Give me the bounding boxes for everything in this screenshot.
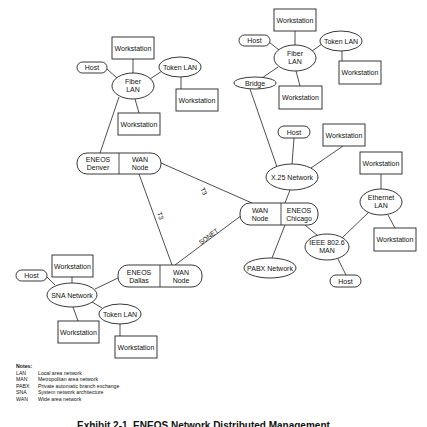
token-lan-node: Token LAN — [159, 57, 201, 77]
edge-ieee-host — [338, 259, 346, 275]
svg-text:WAN: WAN — [173, 269, 189, 276]
svg-text:Host: Host — [85, 64, 99, 71]
edge-ws-x25 — [311, 146, 343, 168]
edge-bridge-x25 — [250, 89, 277, 167]
sna-network-node: SNA Network — [47, 283, 97, 307]
svg-text:Workstation: Workstation — [54, 263, 91, 270]
svg-text:ENEOS: ENEOS — [287, 207, 312, 214]
edge-fiber-bridge — [262, 67, 278, 78]
edge-host-fiber — [269, 42, 279, 50]
svg-text:Workstation: Workstation — [179, 97, 216, 104]
note-item: LAN Local area network — [16, 370, 119, 377]
svg-text:PABX Network: PABX Network — [247, 265, 293, 272]
note-item: MAN Metropolitan area network — [16, 376, 119, 383]
workstation-node: Workstation — [115, 336, 157, 358]
svg-text:LAN: LAN — [126, 86, 140, 93]
edge-chicago-ieee — [305, 225, 318, 236]
fiber-lan-node: Fiber LAN — [112, 73, 154, 99]
svg-text:Chicago: Chicago — [286, 215, 312, 223]
edge-host-fiber — [107, 69, 117, 78]
host-node: Host — [16, 270, 47, 281]
svg-text:Node: Node — [252, 215, 269, 222]
notes-title: Notes: — [16, 363, 119, 370]
workstation-node: Workstation — [339, 61, 381, 84]
svg-text:Node: Node — [173, 277, 190, 284]
svg-text:Host: Host — [247, 37, 261, 44]
x25-network-node: X.25 Network — [266, 164, 318, 190]
edge-x25-chicago — [285, 190, 290, 203]
svg-text:WAN: WAN — [132, 156, 148, 163]
edge-host-x25 — [292, 138, 294, 164]
svg-text:X.25 Network: X.25 Network — [271, 174, 314, 181]
pabx-network-node: PABX Network — [244, 258, 296, 278]
svg-text:Workstation: Workstation — [377, 236, 414, 243]
svg-text:ENEOS: ENEOS — [86, 156, 111, 163]
svg-text:Workstation: Workstation — [363, 160, 400, 167]
svg-text:Fiber: Fiber — [125, 78, 142, 85]
svg-text:Ethernet: Ethernet — [368, 194, 395, 201]
workstation-node: Workstation — [112, 37, 154, 59]
edge-chicago-pabx — [272, 225, 285, 258]
edge-fiber-token — [150, 71, 162, 79]
svg-text:Denver: Denver — [87, 164, 110, 171]
workstation-node: Workstation — [118, 113, 160, 135]
workstation-node: Workstation — [52, 255, 93, 277]
note-abbr: SNA — [16, 389, 38, 396]
edge-fiber-ws-bottom — [135, 99, 139, 113]
svg-text:Dallas: Dallas — [129, 277, 149, 284]
edge-sna-token — [92, 302, 102, 308]
workstation-node: Workstation — [176, 89, 218, 111]
svg-text:LAN: LAN — [288, 58, 302, 65]
edge-fiber-ws-bottom — [296, 71, 300, 86]
svg-text:Token LAN: Token LAN — [163, 64, 197, 71]
eneos-chicago-node: WAN Node ENEOS Chicago — [240, 203, 318, 225]
edge-fiber-denver — [100, 97, 119, 153]
workstation-node: Workstation — [279, 86, 322, 109]
link-label-denver-dallas: T3 — [156, 211, 165, 221]
svg-text:SNA Network: SNA Network — [51, 292, 93, 299]
svg-text:Workstation: Workstation — [118, 344, 155, 351]
notes-legend: Notes: LAN Local area network MAN Metrop… — [16, 363, 119, 403]
svg-text:Workstation: Workstation — [115, 45, 152, 52]
workstation-node: Workstation — [274, 9, 316, 31]
svg-text:Workstation: Workstation — [121, 121, 158, 128]
edge-dallas-sna — [95, 278, 118, 289]
svg-text:Node: Node — [132, 164, 149, 171]
host-node: Host — [77, 62, 107, 73]
workstation-node: Workstation — [360, 152, 402, 174]
link-label-dallas-chicago: SONET — [197, 227, 219, 246]
note-text: Metropolitan area network — [38, 376, 98, 383]
ethernet-lan-node: Ethernet LAN — [360, 189, 402, 215]
note-abbr: LAN — [16, 370, 38, 377]
ieee-man-node: IEEE 802.6 MAN — [305, 234, 349, 260]
workstation-node: Workstation — [374, 228, 416, 251]
host-node: Host — [330, 275, 361, 287]
note-item: PABX Private automatic branch exchange — [16, 383, 119, 390]
svg-text:Token LAN: Token LAN — [103, 311, 137, 318]
svg-text:Host: Host — [24, 272, 38, 279]
svg-text:Host: Host — [287, 129, 301, 136]
figure-caption: Exhibit 2-1. ENEOS Network Distributed M… — [77, 419, 367, 427]
svg-text:ENEOS: ENEOS — [127, 269, 152, 276]
eneos-dallas-node: ENEOS Dallas WAN Node — [118, 265, 202, 287]
svg-text:WAN: WAN — [252, 207, 268, 214]
workstation-node: Workstation — [58, 321, 99, 343]
edge-host-sna — [47, 277, 55, 285]
svg-text:LAN: LAN — [374, 202, 388, 209]
svg-text:IEEE 802.6: IEEE 802.6 — [309, 239, 345, 246]
edge-ieee-ethernet — [342, 211, 370, 238]
svg-text:Workstation: Workstation — [342, 69, 379, 76]
note-item: SNA System network architecture — [16, 389, 119, 396]
svg-text:Host: Host — [338, 278, 352, 285]
note-abbr: PABX — [16, 383, 38, 390]
host-node: Host — [278, 126, 310, 138]
svg-text:Workstation: Workstation — [326, 132, 363, 139]
note-abbr: WAN — [16, 396, 38, 403]
note-text: System network architecture — [38, 389, 103, 396]
link-denver-dallas — [139, 174, 172, 265]
note-text: Wide area network — [38, 396, 81, 403]
eneos-denver-node: ENEOS Denver WAN Node — [77, 153, 161, 174]
svg-text:Workstation: Workstation — [60, 329, 97, 336]
fiber-lan-node: Fiber LAN — [274, 45, 316, 71]
token-lan-node: Token LAN — [99, 304, 141, 324]
